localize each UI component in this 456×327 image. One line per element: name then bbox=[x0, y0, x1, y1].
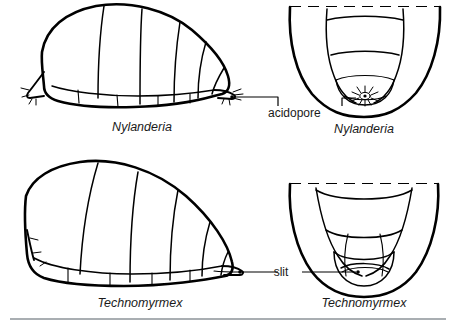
petiole-hair-3 bbox=[29, 99, 32, 104]
panel-nylanderia-lateral bbox=[21, 4, 243, 107]
acidopore-seta-2 bbox=[234, 94, 243, 95]
gaster-outline-posterior-technomyrmex bbox=[290, 184, 439, 297]
acidopore-seta-5 bbox=[222, 99, 224, 104]
acidopore-seta-1 bbox=[233, 89, 241, 92]
slit-label: slit bbox=[274, 265, 289, 279]
petiole-attachment-nylanderia bbox=[27, 72, 44, 98]
slit-marker-dot bbox=[356, 270, 360, 274]
acidopore-label: acidopore bbox=[268, 106, 321, 120]
footer-divider-rule bbox=[10, 318, 446, 320]
panel-nylanderia-posterior bbox=[290, 7, 440, 117]
caption-technomyrmex-lateral: Technomyrmex bbox=[98, 296, 184, 310]
acidopore-seta-4 bbox=[229, 99, 230, 105]
caption-nylanderia-lateral: Nylanderia bbox=[112, 120, 172, 134]
ant-gaster-comparison-figure: acidopore bbox=[0, 0, 456, 327]
panel-technomyrmex-posterior bbox=[290, 184, 439, 297]
petiole-hair-1 bbox=[21, 88, 29, 90]
panel-technomyrmex-lateral bbox=[25, 161, 243, 286]
caption-technomyrmex-posterior: Technomyrmex bbox=[322, 296, 408, 310]
acidopore-leader-left bbox=[232, 97, 278, 106]
caption-nylanderia-posterior: Nylanderia bbox=[334, 122, 394, 136]
